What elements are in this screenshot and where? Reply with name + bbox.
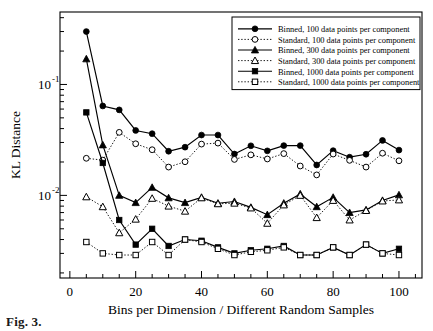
data-point-open-circle [347, 157, 353, 163]
data-point-open-square [133, 252, 138, 257]
data-point-filled-triangle [264, 211, 271, 218]
data-point-open-circle [252, 37, 258, 43]
data-point-open-circle [297, 163, 303, 169]
data-point-open-circle [199, 141, 205, 147]
data-point-open-square [281, 245, 286, 250]
data-point-filled-circle [100, 103, 106, 109]
data-point-open-circle [133, 141, 139, 147]
data-point-open-square [100, 251, 105, 256]
series-5 [84, 237, 402, 258]
data-point-open-square [252, 79, 257, 84]
data-point-open-square [84, 239, 89, 244]
data-point-open-circle [380, 150, 386, 156]
data-point-open-square [248, 249, 253, 254]
data-point-open-square [199, 239, 204, 244]
data-point-filled-square [100, 160, 105, 165]
data-point-filled-circle [314, 162, 320, 168]
data-point-open-triangle [149, 195, 156, 202]
data-point-filled-circle [363, 151, 369, 157]
data-point-open-circle [215, 140, 221, 146]
data-point-open-triangle [181, 208, 188, 215]
data-point-filled-triangle [83, 55, 90, 62]
data-point-open-circle [166, 164, 172, 170]
data-point-filled-circle [248, 143, 254, 149]
data-point-open-square [117, 252, 122, 257]
data-point-filled-square [117, 217, 122, 222]
data-point-filled-circle [297, 143, 303, 149]
data-point-open-square [363, 242, 368, 247]
data-point-filled-square [166, 243, 171, 248]
data-point-open-triangle [346, 216, 353, 223]
data-point-filled-square [396, 246, 401, 251]
data-point-open-circle [116, 129, 122, 135]
data-point-open-circle [182, 159, 188, 165]
data-point-open-circle [330, 151, 336, 157]
legend-entry-label: Binned, 100 data points per component [278, 25, 410, 34]
data-point-filled-triangle [116, 192, 123, 199]
data-point-filled-circle [215, 132, 221, 138]
data-point-open-triangle [116, 229, 123, 236]
data-point-filled-square [252, 69, 257, 74]
y-axis-tick-exponent: -2 [52, 185, 60, 195]
figure-caption: Fig. 3. [6, 314, 42, 331]
data-point-open-triangle [313, 214, 320, 221]
data-point-filled-circle [281, 143, 287, 149]
data-point-filled-circle [182, 144, 188, 150]
x-axis-tick-label: 80 [327, 284, 340, 299]
data-point-open-circle [248, 152, 254, 158]
data-point-open-circle [396, 158, 402, 164]
data-point-filled-circle [264, 148, 270, 154]
data-point-filled-circle [83, 29, 89, 35]
y-axis-label: KL Distance [8, 111, 23, 179]
data-point-open-circle [232, 157, 238, 163]
data-point-open-triangle [165, 203, 172, 210]
data-point-open-circle [314, 172, 320, 178]
legend: Binned, 100 data points per componentSta… [232, 17, 420, 90]
data-point-open-circle [149, 147, 155, 153]
series-4 [84, 110, 402, 258]
data-point-open-circle [264, 156, 270, 162]
data-point-open-square [347, 252, 352, 257]
data-point-open-square [149, 239, 154, 244]
legend-entry-label: Binned, 300 data points per component [278, 46, 410, 55]
series-line [86, 132, 399, 175]
data-point-filled-circle [149, 131, 155, 137]
series-1 [83, 129, 401, 177]
x-axis-label: Bins per Dimension / Different Random Sa… [108, 302, 374, 317]
y-axis-tick-label: 10-1 [38, 74, 60, 92]
data-point-open-square [380, 251, 385, 256]
data-point-open-square [166, 252, 171, 257]
data-point-filled-circle [166, 148, 172, 154]
series-line [86, 112, 399, 255]
data-point-filled-circle [199, 132, 205, 138]
data-point-filled-triangle [149, 184, 156, 191]
data-point-filled-circle [252, 26, 258, 32]
data-point-open-square [298, 252, 303, 257]
legend-entry-label: Standard, 100 data points per component [278, 36, 416, 45]
data-point-filled-circle [133, 128, 139, 134]
data-point-filled-square [149, 226, 154, 231]
data-point-open-square [330, 245, 335, 250]
data-point-open-circle [83, 155, 89, 161]
y-axis-tick-exponent: -1 [52, 74, 60, 84]
data-point-filled-circle [116, 107, 122, 113]
legend-entry-label: Binned, 1000 data points per component [278, 68, 415, 77]
figure-root: 020406080100Bins per Dimension / Differe… [0, 0, 433, 331]
data-point-open-circle [363, 164, 369, 170]
data-point-open-circle [281, 151, 287, 157]
data-point-open-triangle [99, 203, 106, 210]
data-point-filled-circle [396, 147, 402, 153]
data-point-open-square [232, 252, 237, 257]
y-axis-tick-mantissa: 10 [38, 188, 51, 203]
data-point-open-square [314, 252, 319, 257]
x-axis-tick-label: 0 [67, 284, 74, 299]
x-axis-tick-label: 100 [389, 284, 409, 299]
data-point-filled-triangle [99, 141, 106, 148]
x-axis-tick-label: 20 [129, 284, 142, 299]
data-point-open-square [265, 248, 270, 253]
data-point-open-triangle [83, 193, 90, 200]
y-axis-tick-label: 10-2 [38, 185, 60, 203]
data-point-open-square [182, 237, 187, 242]
legend-entry-label: Standard, 1000 data points per component [278, 78, 420, 87]
y-axis-tick-mantissa: 10 [38, 77, 51, 92]
